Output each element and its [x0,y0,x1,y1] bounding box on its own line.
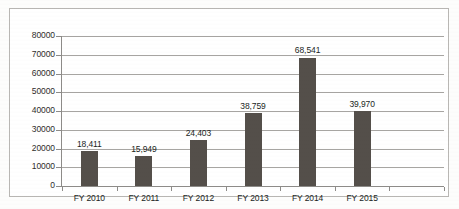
y-axis-tick [56,74,61,75]
bar [135,156,152,186]
y-axis-label: 80000 [11,30,55,40]
y-axis-label: 70000 [11,49,55,59]
bar-value-label: 18,411 [62,139,116,149]
y-axis-label: 30000 [11,124,55,134]
y-axis-tick-labels: 8000070000600005000040000300002000010000… [10,9,55,196]
y-axis-label: 40000 [11,105,55,115]
y-axis-tick [56,36,61,37]
y-axis-tick [56,92,61,93]
bar-value-label: 39,970 [335,99,389,109]
y-axis-label: 10000 [11,161,55,171]
y-axis-label: 50000 [11,86,55,96]
y-axis-label: 0 [11,180,55,190]
x-axis-tick [62,187,63,191]
y-axis-label: 20000 [11,143,55,153]
x-axis-tick [171,187,172,191]
gridline [62,55,444,56]
x-axis-tick [335,187,336,191]
bar [354,111,371,186]
bar [245,113,262,186]
y-axis-label: 60000 [11,68,55,78]
y-axis-tick [56,111,61,112]
x-axis-category-label: FY 2011 [114,193,174,203]
x-axis-tick [117,187,118,191]
y-axis-tick [56,55,61,56]
x-axis-category-label: FY 2014 [278,193,338,203]
bar-value-label: 15,949 [117,144,171,154]
y-axis-tick [56,186,61,187]
bar-value-label: 24,403 [171,128,225,138]
y-axis-tick [56,167,61,168]
gridline [62,36,444,37]
x-axis-tick [226,187,227,191]
x-axis-tick [444,187,445,191]
gridline [62,74,444,75]
x-axis-tick [389,187,390,191]
bar [190,140,207,186]
x-axis-category-label: FY 2015 [332,193,392,203]
bar [299,58,316,187]
bar-value-label: 68,541 [281,45,335,55]
gridline [62,92,444,93]
chart-outer-frame: 8000070000600005000040000300002000010000… [9,8,449,197]
x-axis-tick [280,187,281,191]
bar [81,151,98,186]
chart-screenshot: 8000070000600005000040000300002000010000… [0,0,459,209]
y-axis-tick [56,149,61,150]
x-axis-category-label: FY 2012 [168,193,228,203]
x-axis-category-label: FY 2010 [59,193,119,203]
gridline [62,186,444,187]
bar-value-label: 38,759 [226,101,280,111]
y-axis-tick [56,130,61,131]
x-axis-category-label: FY 2013 [223,193,283,203]
